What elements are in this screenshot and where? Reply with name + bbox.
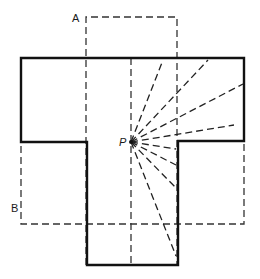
ray-7 — [131, 142, 176, 188]
room-outline — [21, 58, 244, 265]
ray-2 — [131, 60, 208, 142]
ray-8 — [131, 142, 176, 256]
diagram-canvas: A B P — [0, 0, 260, 279]
point-p-marker — [129, 140, 133, 144]
label-b: B — [11, 203, 18, 214]
diagram-svg — [0, 0, 260, 279]
ray-1 — [131, 60, 163, 142]
ray-5 — [131, 142, 176, 149]
label-a: A — [72, 13, 79, 24]
sight-rays — [131, 60, 243, 256]
label-p: P — [119, 137, 126, 148]
